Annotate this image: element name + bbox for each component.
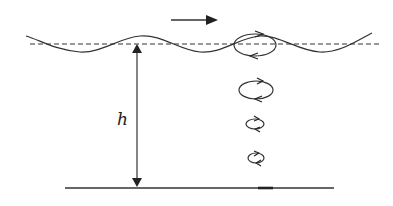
depth-arrow (132, 44, 142, 187)
depth-label: h (117, 109, 128, 129)
surface-orbit (234, 31, 276, 59)
orbit-3 (246, 116, 264, 132)
wave-direction-arrow-icon (171, 15, 218, 25)
orbit-2 (239, 78, 273, 102)
free-surface-wave (26, 33, 372, 52)
orbit-4 (248, 151, 264, 166)
wave-orbital-diagram: h (0, 0, 393, 206)
